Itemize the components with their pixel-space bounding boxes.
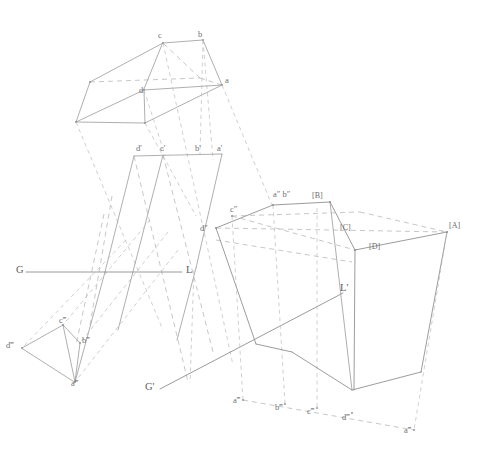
top-edge-d-down	[144, 90, 145, 123]
vertex-dot-d-triple	[351, 412, 353, 414]
aux-left-inner-edge	[63, 325, 75, 382]
label-b-triple-prime: b‴	[275, 403, 283, 412]
vertex-dot-c-triple	[316, 407, 318, 409]
front-fold-edge	[118, 155, 163, 330]
top-hidden-ridge-to-c	[163, 43, 200, 78]
front-right-slant-lower	[177, 268, 196, 340]
box-vertical-edge-A	[421, 232, 447, 372]
label-d-double-prime: d″	[200, 224, 208, 233]
front-hidden-edge-1	[134, 156, 188, 382]
ground-line-auxiliary	[160, 293, 343, 389]
projector-topleft-down	[76, 122, 163, 330]
label-d-prime: d'	[136, 144, 142, 153]
top-front-lower-edge	[145, 85, 222, 123]
label-d-triple-prime-left: d‴	[6, 341, 14, 350]
label-c: c	[158, 31, 162, 40]
projectors-front-to-aux-left	[22, 220, 178, 382]
projector-b-long	[203, 40, 213, 160]
label-ground-line-G-prime: G'	[145, 382, 154, 393]
label-a-b-double-prime: a″ b″	[273, 190, 290, 199]
box-top-ridge-right	[273, 202, 330, 205]
label-a-prime: a'	[217, 144, 222, 153]
label-vertex-D: [D]	[369, 243, 380, 251]
label-b: b	[198, 30, 202, 39]
front-left-slant	[105, 156, 134, 272]
label-c-triple-prime-left: c‴	[59, 316, 66, 325]
top-hidden-ridge	[90, 78, 200, 82]
top-left-slant-face	[76, 43, 163, 123]
projector-c-to-cprime	[163, 43, 233, 365]
projector-to-btriple	[80, 232, 168, 343]
aux-left-quad	[22, 325, 80, 382]
label-d-triple-prime: d‴	[342, 413, 350, 422]
front-view-group	[75, 154, 222, 382]
label-ground-line-L: L	[186, 265, 192, 276]
projector-a-to-aprime	[222, 85, 272, 205]
label-a-triple-prime-2: a‴	[404, 426, 411, 435]
label-a-triple-prime-left: a‴	[71, 379, 78, 388]
vertex-dot-c-double	[231, 215, 233, 217]
label-a-triple-prime-1: a‴	[233, 396, 240, 405]
front-hidden-edge-2	[163, 155, 213, 352]
vertex-dot-b-triple-left	[79, 342, 81, 344]
projector-to-dtriple	[22, 240, 126, 348]
front-right-slant	[196, 154, 222, 268]
top-face-quad	[144, 40, 222, 90]
box-base-edge-left	[256, 344, 292, 352]
label-c-prime: c'	[160, 144, 165, 153]
box-base-edge-mid	[292, 352, 352, 390]
front-left-slant-lower	[75, 272, 105, 382]
projector-bottommid-down	[145, 123, 196, 216]
front-hidden-edge-3	[90, 196, 112, 325]
vertex-dot-d-triple-left	[21, 347, 23, 349]
vertex-dot-a-triple-2	[413, 429, 415, 431]
box-top-ridge-left	[216, 205, 273, 228]
top-hidden-ridge-to-a	[200, 78, 222, 85]
box-hidden-back-edge-5	[360, 212, 447, 232]
label-ground-line-G: G	[16, 265, 24, 276]
label-vertex-A: [A]	[449, 222, 460, 230]
projector-to-atriple	[75, 250, 178, 382]
box-vertical-edge-D	[354, 250, 355, 390]
label-ground-line-L-prime: L'	[340, 283, 348, 294]
label-c-double-prime: c″	[230, 205, 237, 214]
vertex-dot-b-triple	[284, 403, 286, 405]
label-vertex-B: [B]	[312, 192, 323, 200]
label-c-triple-prime: c‴	[307, 407, 314, 416]
top-diagonal-edge	[76, 90, 144, 122]
aux-bottom-baseline	[243, 400, 414, 430]
box-hidden-back-edge-3	[232, 216, 355, 250]
box-hidden-back-edge-1	[216, 228, 447, 232]
front-top-edge	[134, 154, 222, 156]
vertex-dot-ab-double	[272, 204, 274, 206]
vertex-dot-B	[329, 201, 331, 203]
top-view-group	[75, 39, 223, 124]
vertex-dot-D	[354, 249, 356, 251]
right-box-group	[215, 201, 448, 431]
label-d: d	[139, 86, 143, 95]
front-hidden-edge-4	[76, 214, 104, 345]
projectors-top-to-front	[76, 40, 272, 365]
drawing-canvas: c b a d d' c' b' a' a″ b″ c″ d″ d‴ c‴ b‴…	[0, 0, 484, 449]
box-hidden-vertical-2	[273, 205, 285, 404]
vertex-dot-top-left	[89, 81, 91, 83]
aux-left-view-group	[21, 324, 81, 383]
label-b-triple-prime-left: b‴	[82, 336, 90, 345]
projector-b-to-bprime	[200, 40, 203, 155]
label-b-prime: b'	[195, 144, 201, 153]
box-base-edge-right	[352, 372, 421, 390]
label-a: a	[225, 76, 229, 85]
label-vertex-C: [C]	[340, 224, 351, 232]
vertex-dot-a-triple-1	[242, 399, 244, 401]
vertex-dot-A	[446, 231, 448, 233]
vertex-dot-d-double	[215, 227, 217, 229]
box-hidden-vertical-5	[414, 232, 447, 430]
